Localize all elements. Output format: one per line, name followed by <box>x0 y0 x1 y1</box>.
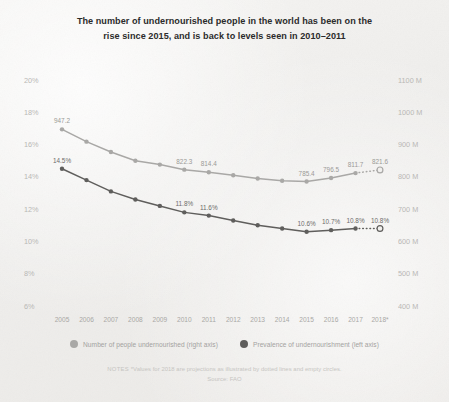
left-axis-tick-label: 6% <box>24 302 35 311</box>
data-point-label: 796.5 <box>323 166 339 173</box>
data-point[interactable] <box>255 176 259 180</box>
data-point[interactable] <box>329 228 333 232</box>
x-axis-tick-label: 2006 <box>79 316 94 323</box>
legend-swatch-icon <box>240 340 248 348</box>
chart-figure: The number of undernourished people in t… <box>0 0 449 402</box>
left-axis-tick-label: 14% <box>24 172 39 181</box>
right-axis-tick-label: 1100 M <box>398 76 422 85</box>
data-point[interactable] <box>84 178 88 182</box>
data-point-projected[interactable] <box>377 167 383 173</box>
data-point[interactable] <box>304 179 308 183</box>
right-axis-tick-label: 900 M <box>398 140 418 149</box>
data-point[interactable] <box>182 167 186 171</box>
data-point[interactable] <box>60 167 64 171</box>
chart-notes: NOTES *Values for 2018 are projections a… <box>0 364 449 384</box>
data-point-label: 11.8% <box>175 200 193 207</box>
x-axis-tick-label: 2014 <box>275 316 290 323</box>
legend-swatch-icon <box>70 340 78 348</box>
series-projection-line <box>356 170 380 173</box>
data-point-label: 947.2 <box>54 117 70 124</box>
x-axis-tick-label: 2018* <box>371 316 389 323</box>
data-point[interactable] <box>304 230 308 234</box>
data-point-label: 10.8% <box>371 217 389 224</box>
data-point-label: 822.3 <box>176 158 192 165</box>
left-axis-tick-label: 10% <box>24 237 39 246</box>
right-axis-tick-label: 700 M <box>398 205 418 214</box>
data-point-label: 11.6% <box>200 204 218 211</box>
right-axis-tick-label: 400 M <box>398 302 418 311</box>
left-axis-tick-label: 8% <box>24 269 35 278</box>
x-axis-tick-label: 2013 <box>250 316 265 323</box>
data-point[interactable] <box>109 189 113 193</box>
data-point[interactable] <box>353 226 357 230</box>
data-point[interactable] <box>329 176 333 180</box>
data-point-label: 10.6% <box>298 220 316 227</box>
data-point[interactable] <box>182 210 186 214</box>
data-point[interactable] <box>60 127 64 131</box>
data-point[interactable] <box>207 213 211 217</box>
data-point[interactable] <box>133 197 137 201</box>
data-point[interactable] <box>84 139 88 143</box>
right-axis-tick-label: 800 M <box>398 172 418 181</box>
data-point[interactable] <box>158 162 162 166</box>
x-axis-tick-label: 2010 <box>177 316 192 323</box>
x-axis-tick-label: 2005 <box>55 316 70 323</box>
data-point[interactable] <box>280 226 284 230</box>
notes-first-line: NOTES *Values for 2018 are projections a… <box>0 364 449 374</box>
x-axis-tick-label: 2011 <box>202 316 217 323</box>
data-point-label: 811.7 <box>348 161 364 168</box>
x-axis-tick-label: 2009 <box>153 316 168 323</box>
right-axis-tick-label: 1000 M <box>398 108 422 117</box>
right-axis-tick-label: 500 M <box>398 269 418 278</box>
data-point[interactable] <box>207 170 211 174</box>
chart-legend: Number of people undernourished (right a… <box>0 340 449 348</box>
x-axis-tick-label: 2016 <box>324 316 339 323</box>
left-axis-tick-label: 18% <box>24 108 39 117</box>
data-point[interactable] <box>255 223 259 227</box>
data-point[interactable] <box>280 179 284 183</box>
left-axis-tick-label: 12% <box>24 205 39 214</box>
right-axis-tick-label: 600 M <box>398 237 418 246</box>
data-point[interactable] <box>109 150 113 154</box>
data-point[interactable] <box>231 218 235 222</box>
data-point[interactable] <box>353 171 357 175</box>
x-axis-tick-label: 2012 <box>226 316 241 323</box>
data-point-label: 10.8% <box>346 217 364 224</box>
left-axis-tick-label: 20% <box>24 76 39 85</box>
data-point-label: 10.7% <box>322 218 340 225</box>
notes-source: Source: FAO <box>0 374 449 384</box>
x-axis-tick-label: 2015 <box>299 316 314 323</box>
data-point-label: 785.4 <box>299 170 315 177</box>
notes-text: *Values for 2018 are projections as illu… <box>131 366 342 372</box>
left-axis-tick-label: 16% <box>24 140 39 149</box>
x-axis-tick-label: 2008 <box>128 316 143 323</box>
legend-label: Prevalence of undernourishment (left axi… <box>253 341 379 348</box>
legend-label: Number of people undernourished (right a… <box>83 341 218 348</box>
notes-label: NOTES <box>107 366 129 372</box>
data-point-label: 821.6 <box>372 158 388 165</box>
x-axis-tick-label: 2017 <box>348 316 363 323</box>
data-point[interactable] <box>158 204 162 208</box>
legend-item-number-undernourished[interactable]: Number of people undernourished (right a… <box>70 340 218 348</box>
data-point[interactable] <box>133 159 137 163</box>
data-point-projected[interactable] <box>377 226 383 232</box>
data-point-label: 814.4 <box>201 160 217 167</box>
data-point-label: 14.5% <box>53 157 71 164</box>
x-axis-tick-label: 2007 <box>104 316 119 323</box>
legend-item-prevalence-undernourishment[interactable]: Prevalence of undernourishment (left axi… <box>240 340 379 348</box>
data-point[interactable] <box>231 173 235 177</box>
